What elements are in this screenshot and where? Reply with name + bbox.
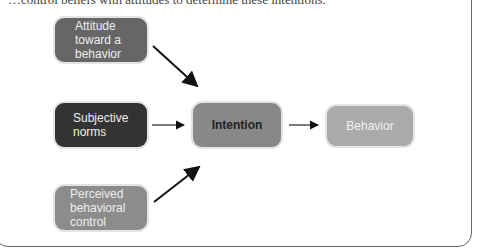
arrow-control-intention xyxy=(154,167,199,202)
arrow-attitude-intention xyxy=(153,46,197,86)
arrows-layer xyxy=(0,0,479,250)
